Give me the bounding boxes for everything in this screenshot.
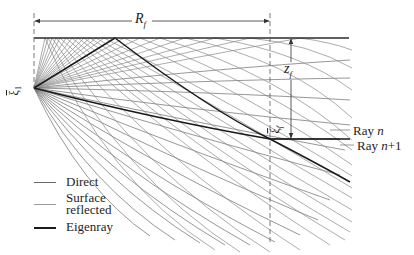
legend-swatch-reflected: [34, 204, 56, 205]
legend-swatch-direct: [34, 182, 56, 183]
depth-label: zf: [284, 62, 292, 81]
receiver-position-label: ξf: [269, 126, 286, 134]
legend-item-direct: Direct: [34, 176, 98, 188]
ray-n1-label: Ray n+1: [357, 139, 402, 152]
ray-n-label: Ray n: [353, 124, 384, 137]
source-position-label: ξ1: [8, 86, 25, 95]
legend-swatch-eigenray: [34, 227, 56, 229]
range-label: Rf: [135, 12, 146, 31]
eigenray-direct: [34, 88, 350, 139]
ray-diagram: [0, 0, 414, 255]
legend-item-surface-reflected: Surface reflected: [34, 192, 111, 216]
legend-item-eigenray: Eigenray: [34, 221, 113, 233]
